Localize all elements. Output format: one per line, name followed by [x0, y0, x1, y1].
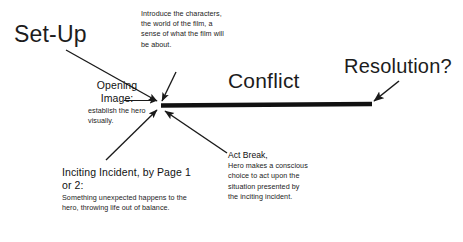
note-inciting-incident-title: Inciting Incident, by Page 1 or 2: [62, 166, 198, 193]
arrow-act-break-to-junction [165, 111, 227, 153]
arrow-resolution-to-line-end [374, 81, 399, 101]
heading-resolution: Resolution? [344, 56, 452, 77]
note-opening-image-body: establish the hero visually. [88, 106, 146, 126]
diagram-canvas: Set-Up Conflict Resolution? Introduce th… [0, 0, 463, 242]
note-opening-image: Opening Image: establish the hero visual… [88, 79, 146, 126]
heading-set-up: Set-Up [14, 22, 87, 46]
note-inciting-incident-body: Something unexpected happens to the hero… [62, 193, 198, 213]
arrow-introduce-to-junction [162, 72, 176, 101]
note-act-break-body: Hero makes a conscious choice to act upo… [228, 161, 308, 202]
note-act-break: Act Break, Hero makes a conscious choice… [228, 150, 308, 202]
note-introduce: Introduce the characters, the world of t… [141, 9, 233, 50]
main-storyline [161, 104, 372, 106]
heading-conflict: Conflict [228, 70, 300, 92]
note-inciting-incident: Inciting Incident, by Page 1 or 2: Somet… [62, 166, 198, 213]
note-opening-image-title: Opening Image: [88, 79, 146, 106]
note-introduce-text: Introduce the characters, the world of t… [141, 9, 233, 50]
note-act-break-title: Act Break, [228, 150, 308, 161]
